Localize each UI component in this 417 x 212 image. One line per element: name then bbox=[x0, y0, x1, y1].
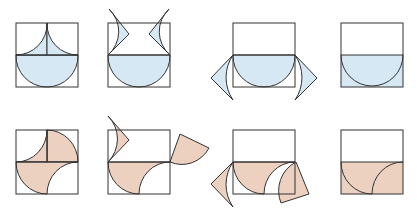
peach-panel-2 bbox=[108, 116, 209, 194]
semicircle-piece bbox=[233, 55, 295, 87]
quarter-piece-rotated bbox=[279, 162, 309, 203]
bottom-piece bbox=[16, 162, 78, 194]
blue-panel-2 bbox=[108, 9, 170, 87]
left-cusp-piece bbox=[108, 9, 129, 55]
left-cusp-piece bbox=[211, 55, 233, 100]
left-cusp-piece bbox=[16, 23, 47, 55]
dissection-diagram bbox=[0, 0, 417, 212]
right-cusp-piece bbox=[149, 9, 170, 55]
bottom-half-fill bbox=[341, 55, 403, 87]
blue-panel-4 bbox=[341, 23, 403, 87]
left-cusp-piece bbox=[211, 162, 233, 207]
blue-panel-1 bbox=[16, 23, 78, 87]
right-cusp-piece bbox=[47, 23, 78, 55]
top-left-cusp-piece bbox=[108, 116, 129, 162]
semicircle-piece bbox=[16, 55, 78, 87]
blue-panel-3 bbox=[211, 23, 317, 100]
top-right-quarter-piece bbox=[47, 130, 78, 162]
peach-panel-1 bbox=[16, 130, 78, 194]
semicircle-piece bbox=[108, 55, 170, 87]
peach-panel-4 bbox=[341, 130, 403, 194]
top-left-cusp-piece bbox=[16, 130, 47, 162]
right-cusp-piece bbox=[295, 55, 317, 100]
quarter-piece-detached bbox=[170, 134, 209, 164]
bottom-piece bbox=[108, 162, 170, 194]
peach-panel-3 bbox=[211, 130, 309, 207]
